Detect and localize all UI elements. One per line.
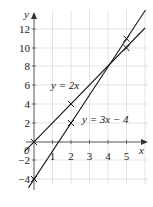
svg-text:8: 8	[25, 60, 31, 72]
svg-text:4: 4	[105, 150, 111, 162]
svg-text:2: 2	[68, 150, 74, 162]
svg-text:3: 3	[87, 150, 93, 162]
svg-text:12: 12	[19, 23, 30, 35]
line-y-2x	[25, 28, 145, 151]
graph: y x 0 1 2 3 4 5 12 10 8 6 4 2 −2 −4	[0, 0, 153, 207]
label-y-2x: y = 2x	[50, 79, 79, 91]
svg-text:10: 10	[19, 42, 31, 54]
svg-text:2: 2	[25, 117, 31, 129]
svg-text:4: 4	[25, 98, 31, 110]
svg-text:−2: −2	[18, 154, 30, 166]
y-tick-labels: 12 10 8 6 4 2 −2 −4	[18, 23, 30, 185]
y-axis-label: y	[23, 8, 29, 20]
svg-text:−4: −4	[18, 173, 30, 185]
svg-text:5: 5	[124, 150, 130, 162]
label-y-3x-minus-4: y = 3x − 4	[81, 113, 129, 125]
y-axis-arrow-icon	[31, 12, 37, 19]
svg-text:6: 6	[25, 79, 31, 91]
x-axis-label: x	[138, 144, 144, 156]
